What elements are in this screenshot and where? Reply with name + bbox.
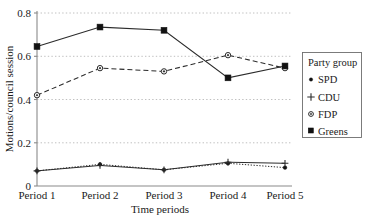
- data-point-cdu-4: [282, 160, 289, 167]
- data-point-fdp-0: [34, 92, 39, 97]
- x-tick-label-3: Period 4: [210, 189, 247, 201]
- data-point-greens-0: [34, 44, 40, 50]
- data-point-cdu-3: [225, 159, 232, 166]
- x-tick-label-4: Period 5: [267, 189, 304, 201]
- x-tick-label-1: Period 2: [82, 189, 119, 201]
- y-axis-title: Motions/council session: [3, 45, 15, 152]
- y-tick-label-3: 0.6: [17, 50, 31, 62]
- y-tick-label-4: 0.8: [17, 7, 31, 19]
- legend-label-spd: SPD: [318, 74, 338, 85]
- series-fdp: [34, 52, 287, 97]
- x-tick-labels: Period 1 Period 2 Period 3 Period 4 Peri…: [19, 189, 304, 201]
- chart-container: 0.8 0.6 0.4 0.2 0 Period 1 Period 2 Peri…: [0, 0, 371, 219]
- filled-square-marker-icon: [308, 128, 313, 133]
- series-line-fdp: [37, 55, 285, 95]
- data-point-cdu-0: [34, 167, 41, 174]
- open-circle-center-icon: [310, 113, 311, 114]
- data-point-fdp-1: [97, 65, 102, 70]
- legend-label-fdp: FDP: [318, 109, 337, 120]
- series-cdu: [34, 159, 289, 174]
- data-point-fdp-3: [225, 52, 230, 57]
- x-tick-label-0: Period 1: [19, 189, 56, 201]
- legend-label-greens: Greens: [318, 126, 348, 137]
- data-point-fdp-2: [161, 69, 166, 74]
- data-point-greens-3: [225, 75, 231, 81]
- data-point-cdu-1: [97, 162, 104, 169]
- dot-marker-icon: [309, 78, 312, 81]
- x-tick-label-2: Period 3: [146, 189, 183, 201]
- line-chart: 0.8 0.6 0.4 0.2 0 Period 1 Period 2 Peri…: [0, 0, 371, 219]
- legend[interactable]: Party group SPD CDU FDP Greens: [303, 53, 362, 138]
- y-tick-label-1: 0.2: [17, 137, 31, 149]
- y-tick-labels: 0.8 0.6 0.4 0.2 0: [17, 7, 31, 192]
- legend-title: Party group: [308, 57, 357, 68]
- data-point-greens-4: [282, 63, 288, 69]
- series-line-greens: [37, 27, 285, 78]
- axes: [34, 11, 292, 186]
- legend-label-cdu: CDU: [318, 92, 341, 103]
- data-point-greens-2: [161, 27, 167, 33]
- x-axis-title: Time periods: [131, 203, 189, 215]
- data-point-cdu-2: [161, 166, 168, 173]
- data-point-greens-1: [97, 24, 103, 30]
- y-tick-label-2: 0.4: [17, 94, 31, 106]
